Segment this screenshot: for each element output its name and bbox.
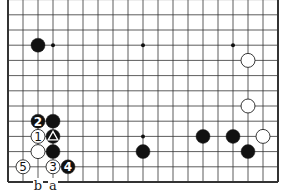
point-labels: ba [33, 178, 58, 193]
point-label-b: b [34, 178, 42, 193]
black-stone [226, 129, 240, 143]
black-stone [46, 145, 60, 159]
black-stone [196, 129, 210, 143]
white-stone [31, 145, 45, 159]
move-number: 4 [64, 160, 72, 174]
black-stone [31, 38, 45, 52]
black-stone [241, 145, 255, 159]
star-point [141, 134, 145, 138]
white-stone [241, 53, 255, 67]
black-stone [46, 114, 60, 128]
star-point [141, 43, 145, 47]
white-stone [256, 129, 270, 143]
star-point [51, 43, 55, 47]
move-number: 2 [34, 115, 42, 129]
go-board: 21534 ba [0, 0, 284, 196]
star-point [231, 43, 235, 47]
move-number: 1 [34, 130, 42, 144]
move-number: 5 [19, 160, 27, 174]
black-stone [136, 145, 150, 159]
white-stone [241, 99, 255, 113]
move-number: 3 [49, 160, 57, 174]
point-label-a: a [49, 178, 57, 193]
